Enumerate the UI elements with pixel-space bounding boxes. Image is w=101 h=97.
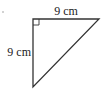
right-angle-marker [33, 19, 39, 25]
left-side-label: 9 cm [7, 45, 31, 59]
triangle-diagram: 9 cm 9 cm [0, 0, 101, 97]
top-side-label: 9 cm [54, 4, 78, 18]
stray-dot [2, 11, 4, 13]
right-triangle [33, 19, 99, 87]
